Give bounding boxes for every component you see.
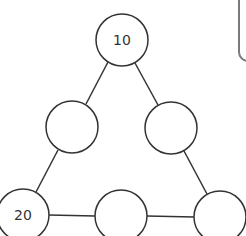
node-top-label: 10	[113, 32, 131, 48]
node-mid-right	[145, 102, 197, 154]
edge-bottommiddle-bottomright	[147, 216, 194, 217]
node-mid-left	[46, 101, 98, 153]
edge-top-midright	[135, 63, 158, 105]
edge-bottomleft-bottommiddle	[49, 215, 95, 216]
edge-top-midleft	[86, 62, 108, 104]
edge-midright-bottomright	[184, 151, 207, 194]
node-bottom-left-label: 20	[14, 207, 32, 223]
node-bottom-right	[194, 191, 246, 236]
triangle-diagram: 10 20	[0, 0, 246, 236]
edge-midleft-bottomleft	[36, 150, 58, 192]
node-bottom-middle	[95, 190, 147, 236]
